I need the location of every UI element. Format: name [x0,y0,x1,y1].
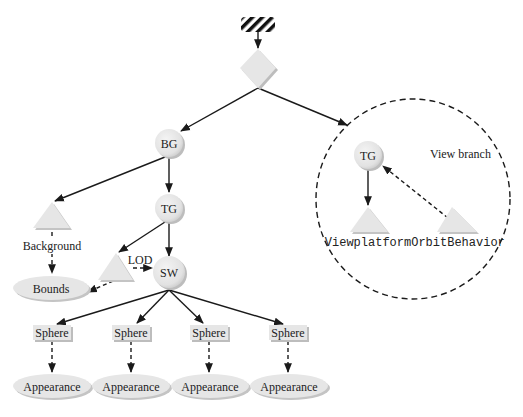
bounds-label: Bounds [33,282,70,296]
sw-label: SW [160,266,179,280]
locale-hatched-node[interactable] [241,17,275,32]
scene-graph-diagram: View branch BG TG SW Background Bounds L… [0,0,523,417]
sphere-label: Sphere [35,326,68,340]
bg-node[interactable]: BG [155,129,185,159]
background-label: Background [23,239,82,253]
view-branch-label: View branch [430,147,491,161]
viewplatform-leaf-node[interactable] [350,207,390,234]
edge-tg-to-lod [119,222,165,252]
sphere-label: Sphere [192,326,225,340]
virtual-universe-diamond[interactable] [240,49,278,90]
appearance-node-1[interactable]: Appearance [13,374,93,400]
edge-orbit-to-view-tg [383,166,448,218]
sphere-node-2[interactable]: Sphere [112,325,152,342]
edges [52,32,448,372]
edge-lod-to-bounds [88,281,113,292]
viewplatform-label: Viewplatform [325,236,411,250]
edge-bg-to-background [55,157,165,201]
sphere-node-4[interactable]: Sphere [269,325,309,342]
sphere-node-1[interactable]: Sphere [33,325,73,342]
view-tg-label: TG [360,149,376,163]
orbit-behavior-label: OrbitBehavior [411,236,505,250]
view-tg-node[interactable]: TG [354,141,384,171]
sphere-label: Sphere [271,326,304,340]
lod-label: LOD [128,253,153,267]
tg-label: TG [161,202,177,216]
bounds-node[interactable]: Bounds [13,276,91,302]
edge-universe-to-view-branch [258,88,347,125]
appearance-label: Appearance [23,380,80,394]
appearance-label: Appearance [102,380,159,394]
appearance-label: Appearance [260,380,317,394]
edge-universe-to-bg [181,88,258,131]
appearance-node-4[interactable]: Appearance [250,374,330,400]
sphere-node-3[interactable]: Sphere [190,325,230,342]
tg-node[interactable]: TG [155,194,185,224]
view-branch-boundary [316,99,510,299]
appearance-node-2[interactable]: Appearance [92,374,172,400]
appearance-label: Appearance [181,380,238,394]
sphere-label: Sphere [114,326,147,340]
bg-label: BG [161,137,178,151]
sw-node[interactable]: SW [153,256,187,290]
background-leaf-node[interactable] [33,202,72,230]
appearance-node-3[interactable]: Appearance [171,374,251,400]
orbit-behavior-leaf-node[interactable] [437,207,479,234]
